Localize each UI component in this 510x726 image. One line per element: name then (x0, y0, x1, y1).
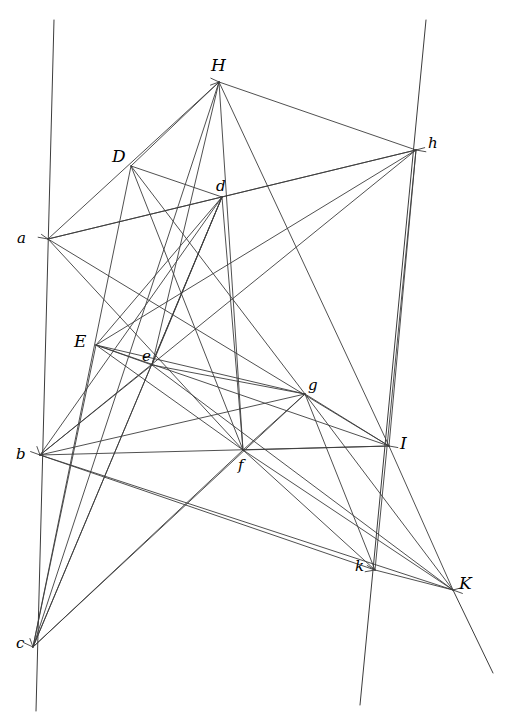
segment-E-I (96, 345, 389, 446)
connecting-segments-group (33, 82, 453, 647)
right-transversal (360, 20, 426, 705)
segment-b-d (40, 197, 222, 455)
segment-e-g (152, 365, 305, 394)
segment-k-K (375, 570, 453, 590)
tick-h-3 (416, 148, 425, 150)
tick-h-2 (416, 150, 426, 152)
left-transversal (36, 20, 54, 711)
point-label-E: E (74, 333, 86, 350)
transversal-lines-group (36, 20, 426, 711)
segment-f-I (243, 446, 389, 450)
segment-E-c (33, 345, 96, 647)
point-label-g: g (308, 378, 318, 393)
point-label-f: f (238, 458, 244, 473)
segment-c-d (33, 197, 222, 647)
segment-f-k (243, 450, 375, 570)
segment-D-d (131, 166, 222, 197)
point-label-c: c (16, 636, 24, 651)
segment-H-h (219, 82, 416, 150)
segment-E-f (96, 345, 243, 450)
segment-h-E (96, 150, 416, 345)
tick-k-10 (365, 570, 375, 572)
point-label-e: e (142, 349, 151, 364)
segment-D-H (131, 82, 219, 166)
geometry-figure-canvas: HhDdaEegbfIkKc (0, 0, 510, 726)
segment-e-K (152, 365, 453, 590)
extended-rays-group (453, 590, 493, 673)
point-label-H: H (211, 57, 226, 74)
point-label-I: I (400, 435, 407, 452)
ray-K-extended (453, 590, 493, 673)
tick-I-14 (389, 446, 398, 448)
segment-b-K (40, 455, 453, 590)
segment-I-H (219, 82, 389, 446)
segment-g-K (305, 394, 453, 590)
point-label-h: h (428, 136, 438, 151)
geometry-figure-svg (0, 0, 510, 726)
segment-b-k (40, 455, 375, 570)
point-label-D: D (112, 148, 126, 165)
segment-D-f (131, 166, 243, 450)
point-label-a: a (17, 231, 26, 246)
segment-h-k (375, 150, 416, 570)
segment-c-g (33, 394, 305, 647)
point-label-d: d (216, 179, 226, 194)
point-label-k: k (355, 559, 364, 574)
point-label-b: b (16, 447, 26, 462)
segment-H-c (33, 82, 219, 647)
point-label-K: K (459, 575, 472, 592)
tick-H-0 (211, 78, 219, 82)
